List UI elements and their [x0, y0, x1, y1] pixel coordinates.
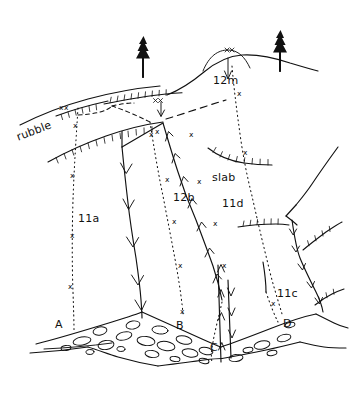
x-mark: x	[189, 131, 193, 139]
sketch-canvas	[0, 0, 354, 414]
x-mark: x	[178, 262, 182, 270]
label-slab: slab	[212, 172, 235, 183]
label-point-d: D	[283, 318, 292, 329]
label-unit-11a: 11a	[78, 213, 99, 224]
x-mark: x	[70, 172, 74, 180]
hachured-scarp-line	[104, 90, 182, 104]
x-mark: x	[68, 283, 72, 291]
dashed-link	[112, 106, 150, 122]
x-mark: x	[243, 149, 247, 157]
c-channel-lines	[218, 265, 236, 363]
downslope-chevron-arrow	[158, 102, 165, 117]
label-point-a: A	[55, 319, 63, 330]
x-mark: x	[180, 308, 184, 316]
label-point-b: B	[176, 320, 184, 331]
x-mark: x	[165, 176, 169, 184]
x-mark: x	[237, 90, 241, 98]
label-unit-11d: 11d	[222, 198, 244, 209]
hachured-scarp-line	[48, 122, 163, 163]
conifer-tree-icon	[136, 36, 150, 78]
label-unit-11c: 11c	[277, 288, 298, 299]
block-diagram-figure: rubble slab 11a 11c 11d 12b 12m A B C D …	[0, 0, 354, 414]
traverse-line-d	[232, 66, 282, 314]
x-mark: x	[149, 131, 153, 139]
x-mark: x	[213, 220, 217, 228]
label-unit-12b: 12b	[173, 192, 195, 203]
x-mark: x	[59, 104, 63, 112]
dashed-link	[112, 103, 134, 106]
x-mark: x	[64, 104, 68, 112]
hachured-scarp-line	[303, 222, 342, 250]
dashed-crest-line	[166, 100, 226, 119]
label-point-c: C	[210, 342, 218, 353]
slab-boundary-line	[163, 123, 222, 300]
x-mark: x	[73, 122, 77, 130]
traverse-line-b	[150, 122, 183, 314]
hachured-scarp-line	[238, 219, 289, 227]
x-mark: x	[222, 262, 226, 270]
conifer-tree-icon	[273, 30, 287, 72]
downslope-chevron-arrow	[121, 147, 147, 318]
x-mark: x	[271, 300, 275, 308]
hachured-scarp-line	[208, 147, 272, 165]
x-mark: x	[172, 218, 176, 226]
label-unit-12m: 12m	[213, 75, 238, 86]
x-mark: x	[70, 232, 74, 240]
hachured-scarp-line	[315, 289, 344, 305]
x-mark: x	[155, 128, 159, 136]
x-mark: x	[197, 178, 201, 186]
